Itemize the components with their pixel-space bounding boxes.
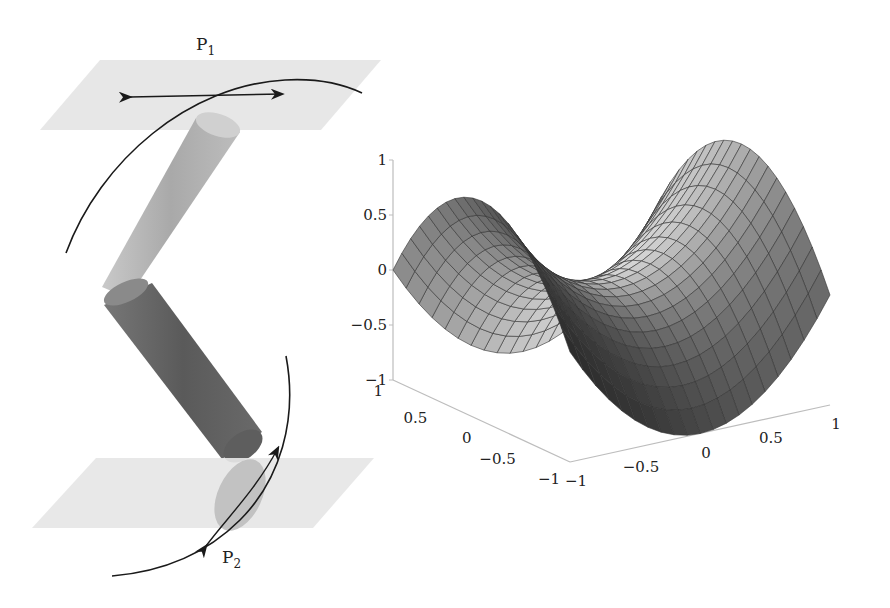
- svg-text:1: 1: [831, 415, 841, 433]
- lower-link-cylinder: [100, 273, 268, 469]
- svg-text:−1: −1: [538, 470, 560, 488]
- svg-text:−1: −1: [565, 472, 587, 490]
- svg-text:0.5: 0.5: [363, 206, 387, 224]
- svg-text:0.5: 0.5: [759, 429, 783, 447]
- plane-p2-label: P2: [222, 547, 241, 571]
- plane-p2: [32, 458, 374, 528]
- svg-text:0: 0: [462, 429, 472, 447]
- svg-text:0.5: 0.5: [403, 409, 427, 427]
- svg-text:1: 1: [377, 151, 387, 169]
- saddle-surface-plot: 10.50−0.5−110.50−0.5−1−1−0.500.51: [351, 140, 841, 490]
- mechanism-diagram: P1 P2: [32, 34, 381, 576]
- svg-text:0: 0: [377, 261, 387, 279]
- svg-text:−0.5: −0.5: [351, 316, 387, 334]
- svg-text:−0.5: −0.5: [623, 458, 659, 476]
- surface-mesh: [393, 140, 830, 435]
- svg-text:−0.5: −0.5: [479, 450, 515, 468]
- svg-text:1: 1: [373, 382, 383, 400]
- svg-text:0: 0: [701, 444, 711, 462]
- figure: P1 P2 10.50−0.5−110.50−0.5−1−1−0.500.51: [0, 0, 890, 608]
- upper-link-cylinder: [102, 107, 243, 298]
- plane-p1-label: P1: [196, 34, 215, 58]
